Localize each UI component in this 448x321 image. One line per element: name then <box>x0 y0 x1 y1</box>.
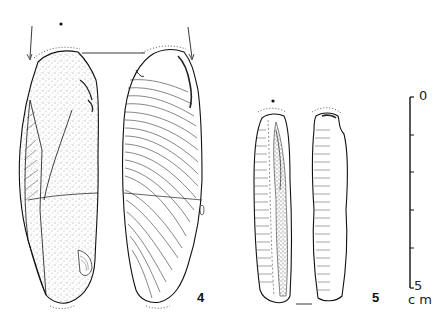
artifact-5-number: 5 <box>372 290 379 305</box>
artifact-4-dorsal-view <box>19 47 98 308</box>
scale-label-zero: 0 <box>419 88 427 103</box>
artifact-5-ventral-view <box>312 108 347 301</box>
artifact-4-ventral-view <box>123 46 205 308</box>
scale-unit: c m <box>408 292 432 307</box>
lithic-figure <box>0 0 448 321</box>
scale-bar <box>410 97 414 288</box>
artifact-5-dorsal-view <box>254 108 292 303</box>
orientation-dot-5 <box>271 99 274 102</box>
arrow-right-4 <box>188 27 192 58</box>
artifact-4 <box>19 22 204 308</box>
artifact-5 <box>254 99 347 304</box>
arrow-left-4 <box>30 26 32 58</box>
orientation-dot-4 <box>59 22 62 25</box>
artifact-4-number: 4 <box>197 290 204 305</box>
scale-label-five: 5 <box>414 278 422 293</box>
